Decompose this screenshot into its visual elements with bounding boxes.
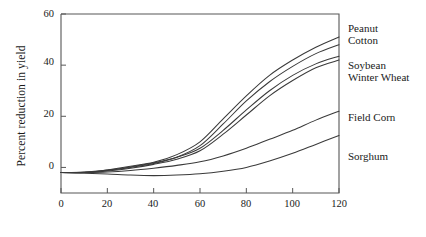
curve-cotton [61, 45, 339, 173]
curve-winter-wheat [61, 60, 339, 173]
curve-peanut [61, 37, 339, 173]
axis-ticks [61, 14, 339, 193]
plot-frame [61, 14, 339, 193]
chart-figure: Percent reduction in yield 60 40 20 0 0 … [0, 0, 426, 237]
axes-frame [61, 14, 339, 193]
data-curves [61, 37, 339, 176]
plot-svg [0, 0, 426, 237]
curve-soybean [61, 56, 339, 172]
